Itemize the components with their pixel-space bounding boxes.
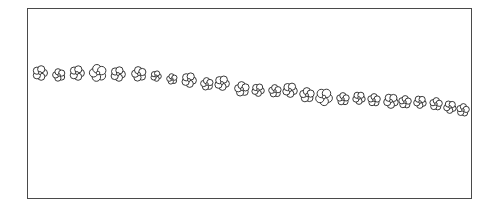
flower-icon [368, 94, 381, 106]
flower-icon [337, 93, 350, 105]
flower-icon [414, 96, 427, 108]
flower-icon [353, 92, 365, 104]
flower-icon [269, 85, 281, 97]
flower-icon [111, 67, 125, 81]
flower-chain [0, 0, 495, 210]
flower-icon [151, 71, 161, 81]
flower-icon [399, 96, 412, 108]
flower-icon [70, 66, 84, 80]
flower-icon [89, 65, 106, 82]
flower-icon [444, 101, 456, 113]
flower-icon [384, 94, 399, 108]
flower-icon [53, 69, 65, 81]
flower-icon [235, 82, 250, 96]
flower-icon [316, 89, 333, 105]
flower-icon [457, 104, 469, 116]
flower-icon [201, 78, 213, 90]
flower-icon [132, 67, 146, 82]
flower-icon [33, 66, 47, 81]
flower-icon [182, 73, 196, 88]
flower-icon [300, 88, 315, 102]
flower-icon [430, 98, 442, 110]
flower-icon [283, 83, 298, 97]
flower-icon [167, 74, 177, 84]
flower-icon [252, 84, 264, 96]
flower-icon [215, 76, 230, 90]
